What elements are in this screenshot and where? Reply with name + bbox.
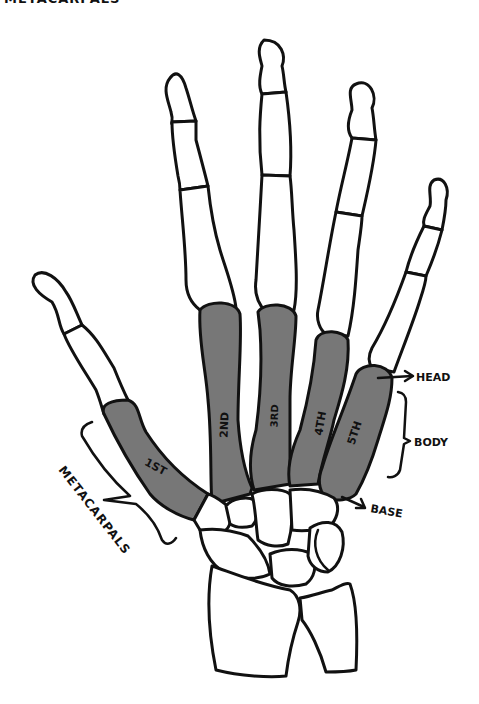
metacarpal-2nd <box>200 303 252 504</box>
label-3rd: 3RD <box>269 404 281 427</box>
middle-finger-phalanges <box>255 40 296 312</box>
base-label: BASE <box>369 502 403 520</box>
ring-finger-phalanges <box>317 83 376 336</box>
hand-skeleton-diagram: 1ST 2ND 3RD 4TH 5TH HEAD BODY BASE METAC… <box>0 0 479 704</box>
label-2nd: 2ND <box>218 412 232 438</box>
base-annotation: BASE <box>342 497 404 521</box>
body-label: BODY <box>414 436 449 449</box>
head-label: HEAD <box>416 371 450 384</box>
body-annotation: BODY <box>388 392 449 477</box>
body-bracket <box>388 392 410 477</box>
ulna <box>300 583 357 672</box>
index-finger-phalanges <box>166 74 236 310</box>
thumb-phalanges <box>33 273 128 414</box>
little-finger-phalanges <box>369 179 447 372</box>
metacarpals-label: METACARPALS <box>56 463 134 557</box>
